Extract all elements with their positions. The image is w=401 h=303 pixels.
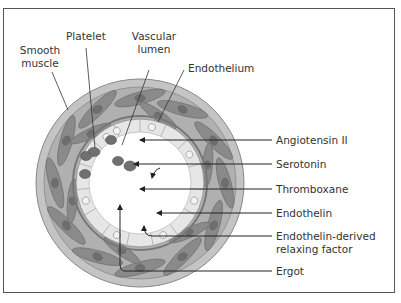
label-line: Smooth: [8, 44, 72, 57]
label-line: Vascular: [122, 30, 186, 43]
label-line: muscle: [8, 57, 72, 70]
label-platelet: Platelet: [66, 30, 106, 43]
label-smooth-muscle: Smooth muscle: [8, 44, 72, 69]
label-serotonin: Serotonin: [276, 158, 326, 171]
label-vascular-lumen: Vascular lumen: [122, 30, 186, 55]
label-thromboxane: Thromboxane: [276, 183, 348, 196]
label-endothelium: Endothelium: [188, 62, 254, 75]
label-angiotensin-ii: Angiotensin II: [276, 134, 348, 147]
label-line: lumen: [122, 43, 186, 56]
label-edrf: Endothelin-derived relaxing factor: [276, 230, 376, 255]
label-endothelin: Endothelin: [276, 207, 332, 220]
label-line: relaxing factor: [276, 243, 376, 256]
label-ergot: Ergot: [276, 265, 304, 278]
label-line: Endothelin-derived: [276, 230, 376, 243]
vascular-lumen: [89, 132, 191, 234]
